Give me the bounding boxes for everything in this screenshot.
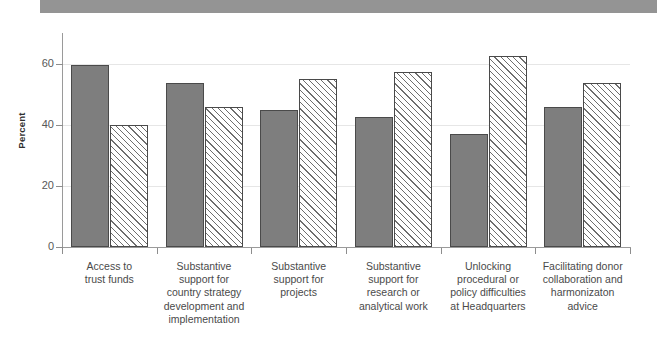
x-axis-label-line: support for <box>157 273 252 286</box>
x-axis-label-line: collaboration and <box>535 273 630 286</box>
x-axis-category-label: Substantivesupport forresearch oranalyti… <box>346 260 441 313</box>
x-axis-label-line: harmonizaton <box>535 286 630 299</box>
y-axis-tick <box>56 64 63 65</box>
y-axis-tick <box>56 125 63 126</box>
bar <box>110 125 148 247</box>
x-axis-category-label: Access totrust funds <box>62 260 157 286</box>
x-axis-label-line: development and <box>157 300 252 313</box>
x-axis-label-line: policy difficulties <box>441 286 536 299</box>
x-axis-category-label: Substantivesupport forprojects <box>251 260 346 300</box>
bar <box>166 83 204 247</box>
y-axis-tick-label: 20 <box>8 180 54 191</box>
x-axis-label-line: research or <box>346 286 441 299</box>
x-axis-label-line: Unlocking <box>441 260 536 273</box>
bar <box>489 56 527 247</box>
x-axis-category-label: Substantivesupport forcountry strategyde… <box>157 260 252 326</box>
x-axis-label-line: Substantive <box>157 260 252 273</box>
bar <box>260 110 298 247</box>
bar <box>71 65 109 247</box>
x-axis-category-label: Unlockingprocedural orpolicy difficultie… <box>441 260 536 313</box>
x-axis-label-line: Facilitating donor <box>535 260 630 273</box>
x-axis-category-labels: Access totrust fundsSubstantivesupport f… <box>62 260 630 338</box>
x-axis-tick <box>346 248 347 254</box>
x-axis-label-line: at Headquarters <box>441 300 536 313</box>
bar <box>299 79 337 247</box>
y-axis-title: Percent <box>16 101 27 161</box>
y-axis-tick <box>56 186 63 187</box>
x-axis-label-line: country strategy <box>157 286 252 299</box>
x-axis-category-label: Facilitating donorcollaboration andharmo… <box>535 260 630 313</box>
plot-area <box>62 33 630 247</box>
x-axis-tick <box>251 248 252 254</box>
x-axis-tick <box>157 248 158 254</box>
y-axis-tick-label: 60 <box>8 58 54 69</box>
header-band <box>40 0 657 13</box>
x-axis-label-line: advice <box>535 300 630 313</box>
bar <box>205 107 243 247</box>
bar <box>355 117 393 247</box>
x-axis-label-line: analytical work <box>346 300 441 313</box>
x-axis-label-line: implementation <box>157 313 252 326</box>
x-axis-label-line: trust funds <box>62 273 157 286</box>
y-axis-tick-labels: 0204060 <box>0 13 54 273</box>
x-axis-tick <box>630 248 631 254</box>
x-axis-label-line: projects <box>251 286 346 299</box>
header-band-text <box>40 0 657 13</box>
x-axis-label-line: support for <box>251 273 346 286</box>
x-axis-tick <box>62 248 63 254</box>
bar <box>450 134 488 247</box>
x-axis-label-line: Substantive <box>251 260 346 273</box>
y-axis-tick-label: 0 <box>8 241 54 252</box>
x-axis-label-line: Substantive <box>346 260 441 273</box>
x-axis-label-line: support for <box>346 273 441 286</box>
x-axis-tick <box>441 248 442 254</box>
gridline <box>62 64 630 65</box>
bar <box>394 72 432 247</box>
bar <box>544 107 582 247</box>
bar-chart: 0204060 Percent Access totrust fundsSubs… <box>0 13 657 338</box>
bar <box>583 83 621 247</box>
x-axis-label-line: Access to <box>62 260 157 273</box>
x-axis-label-line: procedural or <box>441 273 536 286</box>
x-axis-tick <box>535 248 536 254</box>
